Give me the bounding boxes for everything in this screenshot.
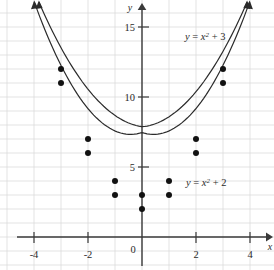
axes — [17, 3, 273, 266]
data-point — [139, 192, 145, 198]
y-axis-arrowhead — [138, 3, 147, 10]
y-tick-label-15: 15 — [125, 22, 136, 33]
x-tick-label-zero: 0 — [130, 244, 135, 255]
curve-path-upper — [39, 2, 247, 127]
y-axis-label: y — [127, 2, 133, 13]
x-tick-label-2: 2 — [193, 249, 198, 260]
curve-upper — [36, 1, 251, 127]
data-point — [193, 136, 199, 142]
data-point — [220, 66, 226, 72]
y-tick-label-10: 10 — [125, 92, 136, 103]
label-upper-const: 3 — [220, 31, 225, 42]
x-axis-label: x — [267, 241, 273, 252]
coordinate-plane: -4 -2 0 2 4 15 10 5 y x — [0, 0, 274, 270]
data-point — [166, 178, 172, 184]
data-point — [193, 150, 199, 156]
data-point — [85, 150, 91, 156]
data-point — [166, 192, 172, 198]
x-tick-label-neg4: -4 — [30, 249, 39, 260]
x-tick-label-neg2: -2 — [84, 249, 93, 260]
data-point — [58, 66, 64, 72]
y-axis-ticks — [138, 27, 149, 167]
data-point — [139, 206, 145, 212]
graph-figure: -4 -2 0 2 4 15 10 5 y x — [0, 0, 274, 270]
label-upper-curve: y = x2 + 3 — [184, 31, 225, 43]
data-point — [112, 192, 118, 198]
data-point — [58, 80, 64, 86]
horizontal-gridlines — [0, 13, 274, 265]
label-lower-curve: y = x2 + 2 — [185, 177, 226, 189]
data-point — [112, 178, 118, 184]
curve-arrowhead-lower-left — [31, 1, 38, 10]
label-lower-const: 2 — [221, 177, 226, 188]
y-tick-labels: 15 10 5 — [125, 22, 136, 173]
x-tick-label-4: 4 — [247, 249, 253, 260]
data-point — [85, 136, 91, 142]
y-tick-label-5: 5 — [130, 162, 135, 173]
data-point — [220, 80, 226, 86]
